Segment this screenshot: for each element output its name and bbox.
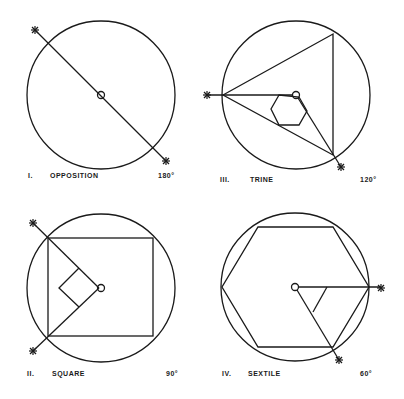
- panel-title: OPPOSITION: [50, 172, 99, 179]
- star-icon: [335, 356, 343, 364]
- center-point-icon: [98, 92, 105, 99]
- panel-angle: 120°: [360, 176, 376, 183]
- panel-angle: 60°: [360, 370, 372, 377]
- sextile-figure: [221, 213, 385, 364]
- star-icon: [29, 347, 37, 355]
- trine-figure: [203, 21, 370, 171]
- star-icon: [377, 284, 385, 292]
- opposition-figure: [27, 21, 175, 169]
- panel-title: SQUARE: [52, 370, 85, 377]
- center-point-icon: [292, 284, 299, 291]
- panel-numeral: IV.: [222, 370, 231, 377]
- panel-angle: 180°: [158, 172, 174, 179]
- panel-numeral: III.: [220, 176, 230, 183]
- panel-numeral: II.: [27, 370, 34, 377]
- star-icon: [162, 157, 170, 165]
- panel-numeral: I.: [28, 172, 33, 179]
- square-figure: [27, 214, 175, 362]
- panel-title: SEXTILE: [248, 370, 281, 377]
- star-icon: [31, 26, 39, 34]
- hexagon-icon: [271, 95, 307, 125]
- star-icon: [337, 163, 345, 171]
- panel-angle: 90°: [166, 370, 178, 377]
- star-icon: [203, 91, 211, 99]
- panel-title: TRINE: [250, 176, 274, 183]
- aspects-diagram: [0, 0, 404, 399]
- star-icon: [29, 219, 37, 227]
